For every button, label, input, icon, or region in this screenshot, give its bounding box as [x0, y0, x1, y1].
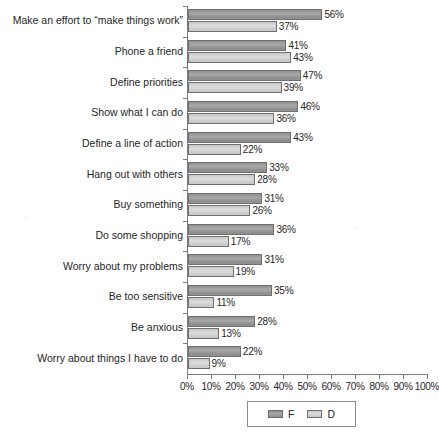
x-axis-tick-label: 70%	[345, 381, 364, 393]
bar-value-label: 43%	[293, 132, 312, 143]
bar-value-label: 17%	[231, 236, 250, 247]
x-axis-tick	[283, 375, 284, 379]
bar-group: 36%17%	[188, 221, 428, 252]
bar-group: 35%11%	[188, 282, 428, 313]
category-tick	[183, 129, 188, 130]
bar-value-label: 31%	[264, 254, 283, 265]
x-axis-tick-label: 30%	[249, 381, 268, 393]
bar-value-label: 13%	[221, 328, 240, 339]
x-axis-tick-label: 0%	[180, 381, 194, 393]
bar-group: 47%39%	[188, 67, 428, 98]
bar-d	[188, 266, 234, 277]
x-axis-tick-label: 60%	[321, 381, 340, 393]
bar-f	[188, 9, 322, 20]
bar-d	[188, 328, 219, 339]
bar-f	[188, 193, 262, 204]
category-tick	[183, 6, 188, 7]
bar-d	[188, 297, 214, 308]
bar-group: 33%28%	[188, 159, 428, 190]
legend-label-f: F	[288, 409, 294, 420]
category-tick	[183, 190, 188, 191]
bar-d	[188, 174, 255, 185]
bar-group: 31%26%	[188, 190, 428, 221]
category-label: Make an effort to “make things work”	[0, 14, 183, 26]
bar-f	[188, 162, 267, 173]
chart-legend: F D	[247, 401, 356, 427]
x-axis-tick	[187, 375, 188, 379]
plot-area: 56%37%41%43%47%39%46%36%43%22%33%28%31%2…	[187, 6, 427, 374]
bar-group: 22%9%	[188, 343, 428, 374]
bar-value-label: 28%	[257, 174, 276, 185]
category-tick	[183, 159, 188, 160]
bar-value-label: 22%	[243, 144, 262, 155]
bar-value-label: 22%	[243, 346, 262, 357]
bar-d	[188, 21, 277, 32]
bar-value-label: 36%	[276, 224, 295, 235]
legend-swatch-f-icon	[268, 410, 283, 418]
category-label: Be anxious	[0, 321, 183, 333]
bar-f	[188, 285, 272, 296]
category-tick	[183, 221, 188, 222]
category-label: Worry about my problems	[0, 260, 183, 272]
category-tick	[183, 67, 188, 68]
bar-group: 41%43%	[188, 37, 428, 68]
category-label: Buy something	[0, 198, 183, 210]
bar-f	[188, 346, 241, 357]
x-axis-tick-label: 80%	[369, 381, 388, 393]
bar-group: 56%37%	[188, 6, 428, 37]
legend-entry-f: F	[268, 409, 294, 420]
bar-value-label: 35%	[274, 285, 293, 296]
bar-f	[188, 316, 255, 327]
bar-f	[188, 132, 291, 143]
x-axis-tick-label: 20%	[225, 381, 244, 393]
x-axis-tick	[355, 375, 356, 379]
x-axis-tick	[331, 375, 332, 379]
x-axis-tick	[427, 375, 428, 379]
bar-value-label: 37%	[279, 21, 298, 32]
bar-value-label: 36%	[276, 113, 295, 124]
bar-d	[188, 52, 291, 63]
bar-value-label: 11%	[216, 297, 235, 308]
bar-d	[188, 144, 241, 155]
x-axis-tick-label: 100%	[415, 381, 439, 393]
category-tick	[183, 313, 188, 314]
category-label: Define a line of action	[0, 137, 183, 149]
bar-value-label: 19%	[236, 266, 255, 277]
x-axis-tick-label: 50%	[297, 381, 316, 393]
bar-value-label: 39%	[284, 82, 303, 93]
category-label: Show what I can do	[0, 106, 183, 118]
x-axis-tick-label: 10%	[201, 381, 220, 393]
legend-entry-d: D	[307, 409, 335, 420]
bar-group: 43%22%	[188, 129, 428, 160]
bar-value-label: 47%	[303, 70, 322, 81]
bar-f	[188, 70, 301, 81]
bar-group: 31%19%	[188, 251, 428, 282]
category-label: Do some shopping	[0, 229, 183, 241]
bar-d	[188, 205, 250, 216]
category-label: Phone a friend	[0, 45, 183, 57]
category-tick	[183, 251, 188, 252]
bar-d	[188, 113, 274, 124]
bar-f	[188, 101, 298, 112]
category-label: Hang out with others	[0, 168, 183, 180]
bar-d	[188, 82, 282, 93]
x-axis-tick	[379, 375, 380, 379]
bar-f	[188, 254, 262, 265]
legend-swatch-d-icon	[307, 410, 322, 418]
bar-group: 46%36%	[188, 98, 428, 129]
category-tick	[183, 282, 188, 283]
x-axis-tick-label: 40%	[273, 381, 292, 393]
bar-group: 28%13%	[188, 313, 428, 344]
x-axis-tick	[211, 375, 212, 379]
bar-d	[188, 358, 210, 369]
bar-value-label: 46%	[300, 101, 319, 112]
bar-value-label: 31%	[264, 193, 283, 204]
bar-d	[188, 236, 229, 247]
category-label: Be too sensitive	[0, 290, 183, 302]
category-tick	[183, 343, 188, 344]
x-axis-tick	[235, 375, 236, 379]
legend-label-d: D	[327, 409, 335, 420]
bar-value-label: 43%	[293, 52, 312, 63]
bar-value-label: 9%	[212, 358, 226, 369]
